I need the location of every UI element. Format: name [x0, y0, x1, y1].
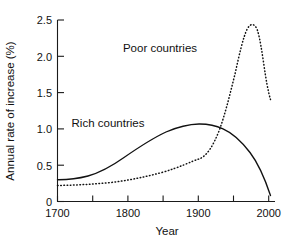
y-axis-ticks — [58, 20, 65, 202]
population-growth-line-chart: 2.5 2.0 1.5 1.0 0.5 0 1700 1800 1900 200… — [0, 0, 292, 249]
x-axis-ticks — [58, 196, 269, 202]
x-tick-label-1800: 1800 — [116, 207, 140, 219]
x-tick-label-2000: 2000 — [256, 207, 280, 219]
chart-figure: 2.5 2.0 1.5 1.0 0.5 0 1700 1800 1900 200… — [0, 0, 292, 249]
x-axis-tick-labels: 1700 1800 1900 2000 — [45, 207, 281, 219]
series-annotation-poor-countries: Poor countries — [123, 42, 197, 54]
y-tick-label-1.5: 1.5 — [37, 87, 52, 99]
x-tick-label-1700: 1700 — [45, 207, 69, 219]
y-axis-tick-labels: 2.5 2.0 1.5 1.0 0.5 0 — [37, 14, 52, 208]
y-axis-title: Annual rate of increase (%) — [4, 41, 16, 181]
x-axis-title: Year — [155, 225, 178, 237]
y-tick-label-2.5: 2.5 — [37, 14, 52, 26]
y-tick-label-2.0: 2.0 — [37, 51, 52, 63]
series-annotation-rich-countries: Rich countries — [72, 117, 145, 129]
x-tick-label-1900: 1900 — [186, 207, 210, 219]
y-tick-label-0.5: 0.5 — [37, 160, 52, 172]
y-tick-label-1.0: 1.0 — [37, 123, 52, 135]
